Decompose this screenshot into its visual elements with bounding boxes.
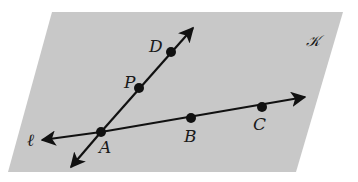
- plane-k: [8, 12, 343, 172]
- geometry-diagram: 𝒦 ℓ A B C P D: [0, 0, 358, 182]
- point-b: [186, 113, 196, 123]
- point-p-label: P: [123, 72, 136, 92]
- point-a: [96, 127, 106, 137]
- point-a-label: A: [97, 137, 111, 157]
- point-d-label: D: [148, 36, 163, 56]
- point-b-label: B: [183, 126, 197, 146]
- point-c-label: C: [253, 114, 266, 134]
- line-l-label: ℓ: [27, 130, 34, 150]
- point-c: [257, 102, 267, 112]
- point-p: [134, 83, 144, 93]
- point-d: [166, 47, 176, 57]
